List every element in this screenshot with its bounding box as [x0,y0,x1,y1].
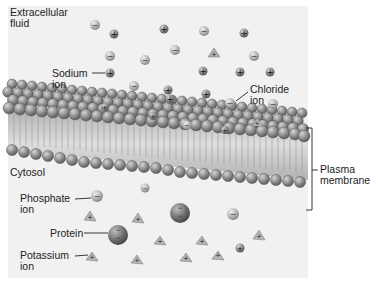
svg-text:+: + [254,119,259,126]
svg-text:−: − [142,56,149,65]
svg-text:−: − [92,21,99,30]
svg-text:+: + [102,104,108,112]
svg-text:−: − [94,192,101,201]
svg-text:+: + [87,213,92,220]
svg-text:+: + [150,113,156,121]
svg-text:+: + [267,68,274,77]
svg-text:−: − [201,27,208,36]
svg-text:−: − [177,212,182,219]
label-potassium-ion: Potassium ion [20,250,69,272]
svg-text:+: + [135,215,140,222]
svg-text:−: − [142,185,148,193]
svg-text:−: − [172,46,179,55]
svg-text:+: + [211,50,216,57]
svg-text:+: + [89,253,94,260]
svg-text:+: + [183,254,188,261]
svg-text:+: + [199,237,204,244]
plasma-membrane-diagram: + + − + + − − − − − − − − − + [0,0,378,287]
svg-text:−: − [177,204,182,211]
svg-text:−: − [184,122,190,130]
svg-text:+: + [167,95,174,104]
label-protein: Protein [50,228,83,239]
svg-text:−: − [107,52,114,61]
svg-text:+: + [165,86,172,95]
potassium-ion-extracellular: + [208,48,220,57]
svg-text:+: + [111,30,118,39]
label-chloride-ion: Chloride ion [250,84,289,106]
svg-text:+: + [107,69,114,78]
label-plasma-membrane: Plasma membrane [320,164,370,186]
svg-text:+: + [200,67,207,76]
label-sodium-ion: Sodium ion [52,68,88,90]
svg-text:+: + [134,256,139,263]
svg-text:−: − [227,99,234,108]
svg-text:+: + [241,29,248,38]
cytosol-ions: − − − − − − − +++ [84,184,265,265]
svg-text:−: − [251,52,258,61]
svg-text:−: − [230,210,237,219]
label-phosphate-ion: Phosphate ion [20,193,70,215]
svg-text:+: + [203,90,210,99]
phosphate-leader [75,198,91,199]
svg-text:+: + [237,245,243,253]
svg-text:−: − [115,234,120,241]
svg-text:−: − [115,226,120,233]
svg-text:+: + [215,251,220,258]
svg-text:+: + [157,237,162,244]
membrane-illustration: + + − + + − − − − − − − − − + [0,0,378,287]
svg-text:+: + [161,25,168,34]
svg-text:−: − [131,82,138,91]
svg-text:+: + [256,232,261,239]
svg-text:+: + [222,127,228,135]
svg-text:+: + [237,68,244,77]
chloride-leader [236,92,248,101]
potassium-leader [75,255,88,256]
label-cytosol: Cytosol [10,167,45,178]
label-extracellular-fluid: Extracellular fluid [10,7,68,29]
